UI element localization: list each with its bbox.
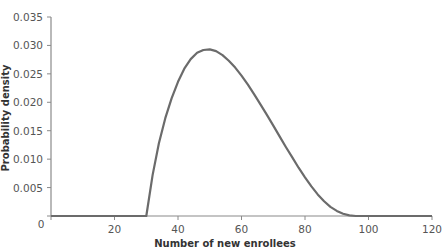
y-tick-label: 0.005 xyxy=(13,182,43,194)
x-tick-label: 100 xyxy=(358,223,378,235)
x-tick-label: 40 xyxy=(171,223,184,235)
x-tick-label: 60 xyxy=(235,223,248,235)
y-axis: 0.0050.0100.0150.0200.0250.0300.035 xyxy=(13,11,51,216)
x-tick-label: 80 xyxy=(298,223,311,235)
density-chart: 0.0050.0100.0150.0200.0250.0300.035 2040… xyxy=(0,0,442,252)
y-tick-label: 0.035 xyxy=(13,11,43,23)
x-axis: 20406080100120 xyxy=(47,216,442,235)
origin-label: 0 xyxy=(38,218,45,230)
x-axis-title: Number of new enrollees xyxy=(154,238,296,249)
x-tick-label: 20 xyxy=(108,223,121,235)
x-tick-label: 120 xyxy=(422,223,442,235)
y-tick-label: 0.025 xyxy=(13,68,43,80)
y-tick-label: 0.030 xyxy=(13,39,43,51)
y-tick-label: 0.010 xyxy=(13,153,43,165)
y-tick-label: 0.020 xyxy=(13,96,43,108)
y-tick-label: 0.015 xyxy=(13,125,43,137)
density-curve xyxy=(51,49,432,216)
y-axis-title: Probability density xyxy=(0,64,11,171)
